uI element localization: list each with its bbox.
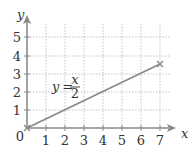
x-axis-label: x — [181, 126, 189, 141]
y-tick-label: 1 — [13, 103, 21, 118]
chart-canvas: 1 2 3 4 5 6 7 1 2 3 4 5 0 x y y= x 2 — [0, 0, 190, 153]
grid — [27, 24, 170, 128]
x-tick-labels: 1 2 3 4 5 6 7 — [42, 133, 164, 148]
x-tick-label: 1 — [42, 133, 50, 148]
y-axis-label: y — [16, 7, 25, 22]
x-tick-label: 7 — [156, 133, 164, 148]
equation-annotation: y= x 2 — [51, 72, 80, 101]
x-tick-label: 5 — [118, 133, 126, 148]
x-tick-label: 6 — [137, 133, 145, 148]
x-tick-label: 3 — [80, 133, 88, 148]
equation-numerator: x — [71, 72, 79, 87]
x-tick-label: 2 — [61, 133, 69, 148]
x-tick-label: 4 — [99, 133, 107, 148]
equation-denominator: 2 — [71, 86, 79, 101]
y-tick-label: 3 — [13, 67, 21, 82]
tick-marks — [24, 37, 160, 131]
y-tick-label: 2 — [13, 85, 21, 100]
y-tick-label: 5 — [13, 30, 21, 45]
y-tick-label: 4 — [13, 49, 21, 64]
origin-label: 0 — [16, 129, 24, 144]
y-tick-labels: 1 2 3 4 5 — [13, 30, 21, 118]
